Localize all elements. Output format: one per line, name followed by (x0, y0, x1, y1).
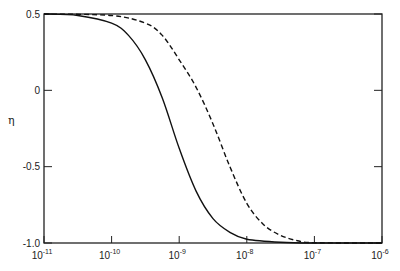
x-tick-label: 10-9 (169, 248, 186, 261)
x-axis-ticks: 10-1110-1010-910-810-710-6 (32, 236, 389, 261)
y-tick-label: 0.5 (26, 9, 40, 20)
x-tick-label: 10-7 (304, 248, 321, 261)
line-chart: 0.50-0.5-1.0 10-1110-1010-910-810-710-6 … (0, 0, 400, 271)
series-dashed-line (44, 14, 382, 243)
x-tick-label: 10-11 (32, 248, 53, 261)
y-tick-label: 0 (34, 85, 40, 96)
x-tick-label: 10-8 (236, 248, 253, 261)
y-axis-label: η (8, 114, 15, 127)
y-tick-label: -0.5 (23, 161, 41, 172)
plot-frame (44, 14, 382, 243)
x-tick-label: 10-10 (99, 248, 120, 261)
series-solid-line (44, 14, 382, 243)
x-tick-label: 10-6 (371, 248, 388, 261)
y-axis-ticks: 0.50-0.5-1.0 (23, 9, 382, 249)
y-tick-label: -1.0 (23, 238, 41, 249)
